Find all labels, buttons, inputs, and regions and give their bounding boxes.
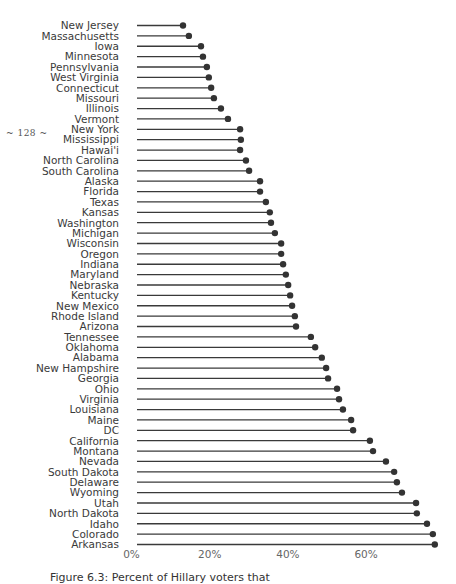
lollipop-row: Idaho [90,518,430,530]
lollipop-dot [287,292,293,298]
lollipop-dot [267,209,273,215]
lollipop-dot [246,168,252,174]
chart-rows: New JerseyMassachusettsIowaMinnesotaPenn… [36,19,438,550]
lollipop-row: Ohio [95,383,341,395]
lollipop-dot [413,500,419,506]
lollipop-dot [278,251,284,257]
lollipop-dot [257,178,263,184]
lollipop-row: Colorado [72,528,436,540]
x-tick-label: 40% [276,548,299,560]
lollipop-dot [399,489,405,495]
lollipop-dot [391,469,397,475]
lollipop-dot [370,448,376,454]
lollipop-dot [367,438,373,444]
lollipop-dot [268,220,274,226]
lollipop-dot [225,116,231,122]
lollipop-dot [280,261,286,267]
lollipop-dot [204,64,210,70]
lollipop-row: Utah [94,497,419,509]
page-number: ~ 128 ~ [6,128,47,138]
lollipop-dot [263,199,269,205]
lollipop-row: South Carolina [42,165,252,177]
lollipop-dot [394,479,400,485]
lollipop-dot [285,282,291,288]
lollipop-dot [218,105,224,111]
lollipop-dot [200,53,206,59]
lollipop-dot [238,136,244,142]
lollipop-dot [278,240,284,246]
lollipop-dot [180,22,186,28]
lollipop-row: Wyoming [70,486,405,498]
x-tick-label: 0% [123,548,140,560]
lollipop-dot [293,323,299,329]
lollipop-dot [257,188,263,194]
lollipop-dot [430,531,436,537]
lollipop-dot [383,458,389,464]
lollipop-dot [308,334,314,340]
lollipop-dot [186,33,192,39]
lollipop-dot [243,157,249,163]
lollipop-dot [334,386,340,392]
lollipop-dot [208,85,214,91]
lollipop-dot [272,230,278,236]
lollipop-dot [237,126,243,132]
lollipop-dot [283,271,289,277]
figure-caption: Figure 6.3: Percent of Hillary voters th… [50,571,270,584]
state-label: Arkansas [71,538,119,550]
lollipop-dot [323,365,329,371]
lollipop-dot [319,354,325,360]
lollipop-dot [336,396,342,402]
lollipop-dot [237,147,243,153]
lollipop-row: Nevada [79,455,389,467]
lollipop-dot [348,417,354,423]
lollipop-dot [424,521,430,527]
lollipop-dot [340,406,346,412]
lollipop-row: Delaware [70,476,401,488]
lollipop-dot [206,74,212,80]
lollipop-dot [350,427,356,433]
lollipop-dot [414,510,420,516]
lollipop-dot [289,303,295,309]
lollipop-dot [432,541,438,547]
lollipop-row: DC [104,424,357,436]
lollipop-dot [312,344,318,350]
lollipop-dot [292,313,298,319]
lollipop-row: Maine [87,414,354,426]
x-tick-label: 60% [354,548,377,560]
lollipop-dot [325,375,331,381]
x-axis-ticks: 0%20%40%60% [123,548,378,560]
x-tick-label: 20% [198,548,221,560]
lollipop-dot [211,95,217,101]
lollipop-dot [198,43,204,49]
